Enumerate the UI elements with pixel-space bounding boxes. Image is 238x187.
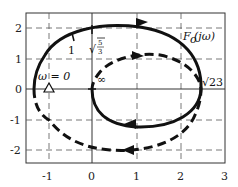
ytick-1: 1 (15, 53, 22, 66)
nyquist-curve-dashed (34, 54, 201, 150)
svg-text:(jω): (jω) (194, 30, 215, 43)
triangle-marker-icon (44, 83, 54, 92)
xtick-0: 0 (88, 170, 95, 183)
ytick-neg2: -2 (10, 144, 21, 157)
arrow-icon (136, 18, 148, 27)
ytick-2: 2 (15, 22, 22, 35)
xtick-neg1: -1 (42, 170, 53, 183)
xtick-3: 3 (221, 170, 228, 183)
sqrt-5-3-label: √ 5 3 (89, 38, 105, 56)
xtick-2: 2 (177, 170, 184, 183)
svg-text:5: 5 (98, 39, 102, 47)
nyquist-plot: 2 1 0 -1 -2 -1 0 1 2 3 ω = 0 1 √ 5 3 ∞ F… (0, 0, 238, 187)
infinity-label: ∞ (97, 73, 106, 86)
arrow-icon (122, 145, 134, 155)
sqrt23-label: √23 (202, 76, 223, 89)
xtick-1: 1 (133, 170, 140, 183)
svg-text:3: 3 (98, 48, 102, 56)
omega-zero-label: ω = 0 (38, 70, 70, 83)
label-one: 1 (68, 44, 75, 57)
svg-text:√: √ (89, 43, 97, 56)
ytick-neg1: -1 (10, 114, 21, 127)
fo-jw-label: F o (jω) (182, 30, 215, 46)
ytick-0: 0 (15, 83, 22, 96)
